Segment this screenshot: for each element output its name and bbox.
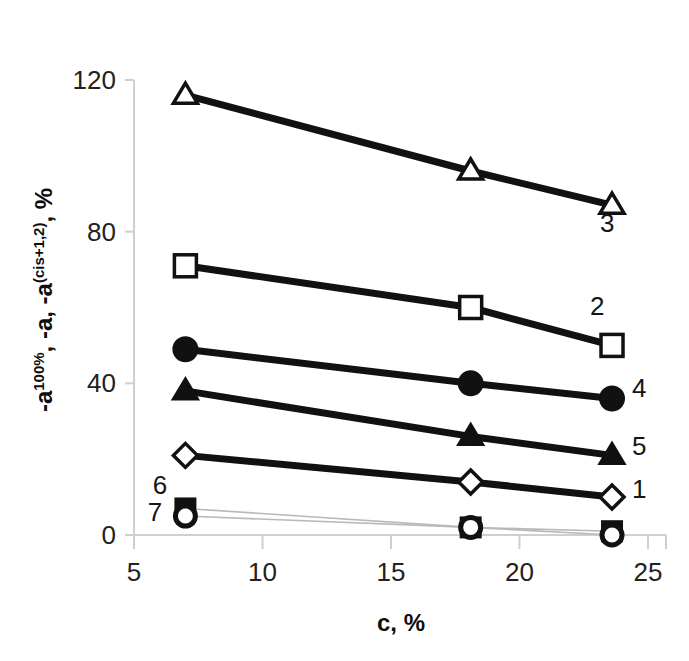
series-number-label-2: 2: [590, 291, 604, 321]
marker-filled-circle: [600, 387, 624, 411]
y-tick-label-120: 120: [73, 65, 116, 95]
series-line-1: [185, 455, 612, 497]
series-number-label-6: 6: [153, 470, 167, 500]
series-number-label-5: 5: [632, 431, 646, 461]
series-layer: [173, 83, 624, 545]
marker-open-circle: [175, 506, 195, 526]
y-tick-label-40: 40: [87, 368, 116, 398]
marker-open-circle: [461, 517, 481, 537]
axis-title-layer: c, %-a100%, -a, -a(cis+1,2), %: [30, 188, 426, 636]
series-line-3: [185, 95, 612, 205]
series-line-7: [185, 516, 612, 535]
marker-open-square: [460, 297, 482, 319]
series-line-4: [185, 349, 612, 398]
y-axis-title: -a100%, -a, -a(cis+1,2), %: [30, 188, 58, 412]
marker-open-circle: [602, 525, 622, 545]
marker-open-square: [174, 255, 196, 277]
marker-open-diamond: [459, 470, 483, 494]
series-number-label-7: 7: [148, 497, 162, 527]
series-number-label-4: 4: [632, 373, 646, 403]
x-tick-label-10: 10: [248, 557, 277, 587]
series-line-6: [185, 508, 612, 531]
y-tick-label-0: 0: [102, 520, 116, 550]
marker-open-triangle: [173, 83, 197, 103]
plot-area: 04080120510152025 3245167 c, %-a100%, -a…: [0, 0, 689, 661]
series-number-label-1: 1: [632, 474, 646, 504]
marker-filled-circle: [459, 371, 483, 395]
marker-open-diamond: [173, 443, 197, 467]
marker-open-diamond: [600, 485, 624, 509]
x-axis-title: c, %: [377, 609, 425, 636]
annotation-layer: 3245167: [148, 208, 647, 527]
series-line-2: [185, 266, 612, 346]
x-tick-label-15: 15: [377, 557, 406, 587]
series-3: [173, 83, 624, 213]
series-number-label-3: 3: [600, 208, 614, 238]
series-1: [173, 443, 624, 509]
x-tick-label-20: 20: [505, 557, 534, 587]
chart-figure: 04080120510152025 3245167 c, %-a100%, -a…: [0, 0, 689, 661]
series-line-5: [185, 391, 612, 455]
x-tick-label-25: 25: [634, 557, 663, 587]
series-2: [174, 255, 623, 357]
marker-open-square: [601, 334, 623, 356]
x-tick-label-5: 5: [127, 557, 141, 587]
marker-filled-circle: [173, 337, 197, 361]
y-tick-label-80: 80: [87, 217, 116, 247]
